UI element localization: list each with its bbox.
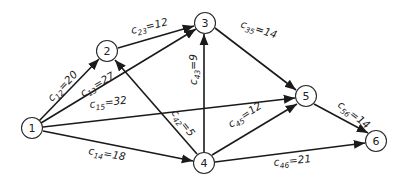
network-diagram: c12=20 c13=27 c15=32 c14=18 c23=12 c43=9… [0,0,407,183]
label-c56: c56=14 [334,98,373,133]
edge-3-5 [215,28,296,90]
svg-text:5: 5 [303,90,310,103]
label-c43: c43=9 [187,54,202,85]
label-c42: c42=5 [167,107,198,141]
label-c35: c35=14 [238,17,278,43]
label-c12: c12=20 [45,68,82,106]
node-2: 2 [97,41,118,62]
svg-text:1: 1 [29,122,36,135]
edge-4-2 [115,60,197,154]
svg-text:2: 2 [104,45,111,58]
node-6: 6 [366,131,387,152]
node-5: 5 [296,86,317,107]
diagram-svg: c12=20 c13=27 c15=32 c14=18 c23=12 c43=9… [0,0,407,183]
svg-text:6: 6 [373,135,380,148]
label-c15: c15=32 [89,93,128,112]
label-c46: c46=21 [273,152,312,171]
svg-text:4: 4 [201,157,208,170]
node-3: 3 [195,13,216,34]
node-4: 4 [194,153,215,174]
svg-text:3: 3 [202,17,209,30]
node-1: 1 [22,118,43,139]
